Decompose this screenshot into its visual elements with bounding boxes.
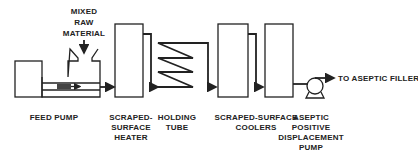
pump-label-1: ASEPTIC (293, 113, 329, 122)
aseptic-pump-icon (306, 78, 324, 98)
heater-label-3: HEATER (114, 133, 148, 142)
feed-pump-motor (15, 61, 42, 97)
outlet-label: TO ASEPTIC FILLER (338, 74, 418, 83)
feed-pump-label: FEED PUMP (30, 113, 79, 122)
feed-pump (15, 49, 100, 97)
pump-label-3: DISPLACEMENT (278, 133, 344, 142)
raw-material-label-3: MATERIAL (63, 29, 105, 38)
feed-pump-piston (57, 84, 71, 89)
pump-label-2: POSITIVE (292, 123, 331, 132)
raw-material-label-1: MIXED (71, 7, 97, 16)
coolers-label-1: SCRAPED-SURFACE (214, 113, 297, 122)
holding-tube-label-1: HOLDING (158, 113, 196, 122)
scraped-surface-heater (115, 24, 143, 97)
scraped-surface-cooler-1 (218, 24, 248, 97)
holding-tube-label-2: TUBE (166, 123, 189, 132)
coolers-label-2: COOLERS (236, 123, 277, 132)
pipe-cooler1-to-cooler2 (248, 34, 263, 87)
holding-tube-coil (158, 43, 216, 87)
pipe-heater-to-tube (143, 34, 158, 87)
process-flow-diagram: MIXED RAW MATERIAL FEED PUMP SCRAPED- SU… (0, 0, 418, 155)
heater-label-2: SURFACE (111, 123, 151, 132)
raw-material-label-2: RAW (74, 18, 94, 27)
pump-label-4: PUMP (299, 143, 323, 152)
scraped-surface-cooler-2 (265, 24, 293, 97)
heater-label-1: SCRAPED- (109, 113, 153, 122)
